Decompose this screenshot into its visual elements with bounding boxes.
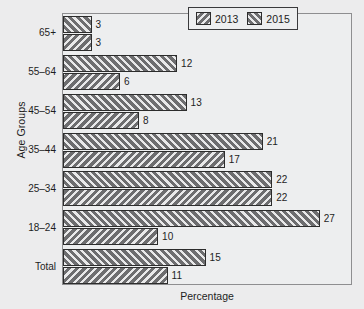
legend-label-2015: 2015: [266, 13, 289, 25]
bar-group: 138: [63, 94, 351, 129]
bar-group: 126: [63, 55, 351, 90]
bar-group: 2222: [63, 171, 351, 206]
bar-2013[interactable]: [63, 151, 225, 168]
bar-value-2013: 11: [172, 267, 182, 284]
bar-2015[interactable]: [63, 210, 320, 227]
bar-value-2013: 8: [143, 112, 149, 129]
bars-layer: 331261382117222227101511: [63, 14, 351, 284]
y-axis-tick-label: Total: [0, 260, 56, 271]
bar-2015[interactable]: [63, 55, 177, 72]
bar-value-2015: 27: [324, 210, 335, 227]
bar-value-2015: 12: [181, 55, 192, 72]
plot-area: 331261382117222227101511: [62, 13, 352, 285]
y-axis-tick-label: 18–24: [0, 221, 56, 232]
bar-value-2013: 6: [124, 73, 130, 90]
bar-value-2015: 3: [96, 16, 102, 33]
bar-2013[interactable]: [63, 228, 158, 245]
chart-legend: 2013 2015: [188, 7, 298, 30]
bar-2013[interactable]: [63, 189, 272, 206]
legend-entry-2013[interactable]: 2013: [196, 12, 238, 25]
bar-2015[interactable]: [63, 94, 187, 111]
bar-value-2015: 22: [276, 171, 287, 188]
bar-2015[interactable]: [63, 16, 92, 33]
bar-value-2013: 10: [162, 228, 173, 245]
bar-value-2015: 13: [191, 94, 202, 111]
bar-group: 2117: [63, 133, 351, 168]
bar-2013[interactable]: [63, 73, 120, 90]
y-axis-tick-labels: 65+55–6445–5435–4425–3418–24Total: [0, 13, 58, 285]
y-axis-tick-label: 55–64: [0, 66, 56, 77]
bar-2013[interactable]: [63, 112, 139, 129]
bar-2015[interactable]: [63, 171, 272, 188]
chart-figure: Age Groups Percentage 65+55–6445–5435–44…: [0, 0, 364, 309]
bar-value-2013: 3: [96, 34, 102, 51]
legend-swatch-2013-icon: [196, 12, 211, 25]
bar-value-2015: 15: [210, 249, 221, 266]
legend-entry-2015[interactable]: 2015: [247, 12, 289, 25]
legend-swatch-2015-icon: [247, 12, 262, 25]
bar-2015[interactable]: [63, 133, 263, 150]
y-axis-tick-label: 25–34: [0, 182, 56, 193]
y-axis-tick-label: 45–54: [0, 105, 56, 116]
y-axis-tick-label: 65+: [0, 27, 56, 38]
bar-value-2013: 22: [276, 189, 287, 206]
bar-value-2015: 21: [267, 133, 278, 150]
x-axis-title: Percentage: [62, 290, 352, 302]
legend-label-2013: 2013: [215, 13, 238, 25]
bar-2013[interactable]: [63, 267, 168, 284]
bar-group: 2710: [63, 210, 351, 245]
bar-value-2013: 17: [229, 151, 240, 168]
bar-group: 1511: [63, 249, 351, 284]
bar-2013[interactable]: [63, 34, 92, 51]
bar-2015[interactable]: [63, 249, 206, 266]
y-axis-tick-label: 35–44: [0, 144, 56, 155]
